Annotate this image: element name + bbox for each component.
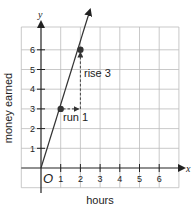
x-axis-title: hours bbox=[86, 194, 114, 206]
rise-label: rise 3 bbox=[84, 67, 111, 79]
x-tick-3: 3 bbox=[98, 174, 103, 184]
y-tick-5: 5 bbox=[30, 65, 35, 75]
y-tick-3: 3 bbox=[30, 104, 35, 114]
y-tick-4: 4 bbox=[30, 84, 35, 94]
run-label: run 1 bbox=[63, 111, 88, 123]
y-tick-6: 6 bbox=[30, 45, 35, 55]
y-tick-2: 2 bbox=[30, 124, 35, 134]
y-axis-symbol: y bbox=[37, 9, 43, 20]
origin-label: O bbox=[43, 171, 53, 186]
x-axis-symbol: x bbox=[185, 163, 191, 174]
x-tick-4: 4 bbox=[117, 174, 122, 184]
coordinate-plane: 1 2 3 4 5 6 1 2 3 4 5 6 O x y rise 3 run… bbox=[0, 0, 195, 214]
point-2-6 bbox=[77, 47, 83, 53]
x-tick-6: 6 bbox=[157, 174, 162, 184]
grid bbox=[21, 27, 179, 188]
y-tick-1: 1 bbox=[30, 144, 35, 154]
x-tick-5: 5 bbox=[137, 174, 142, 184]
x-tick-2: 2 bbox=[78, 174, 83, 184]
x-tick-1: 1 bbox=[58, 174, 63, 184]
y-axis-title: money earned bbox=[2, 73, 14, 143]
